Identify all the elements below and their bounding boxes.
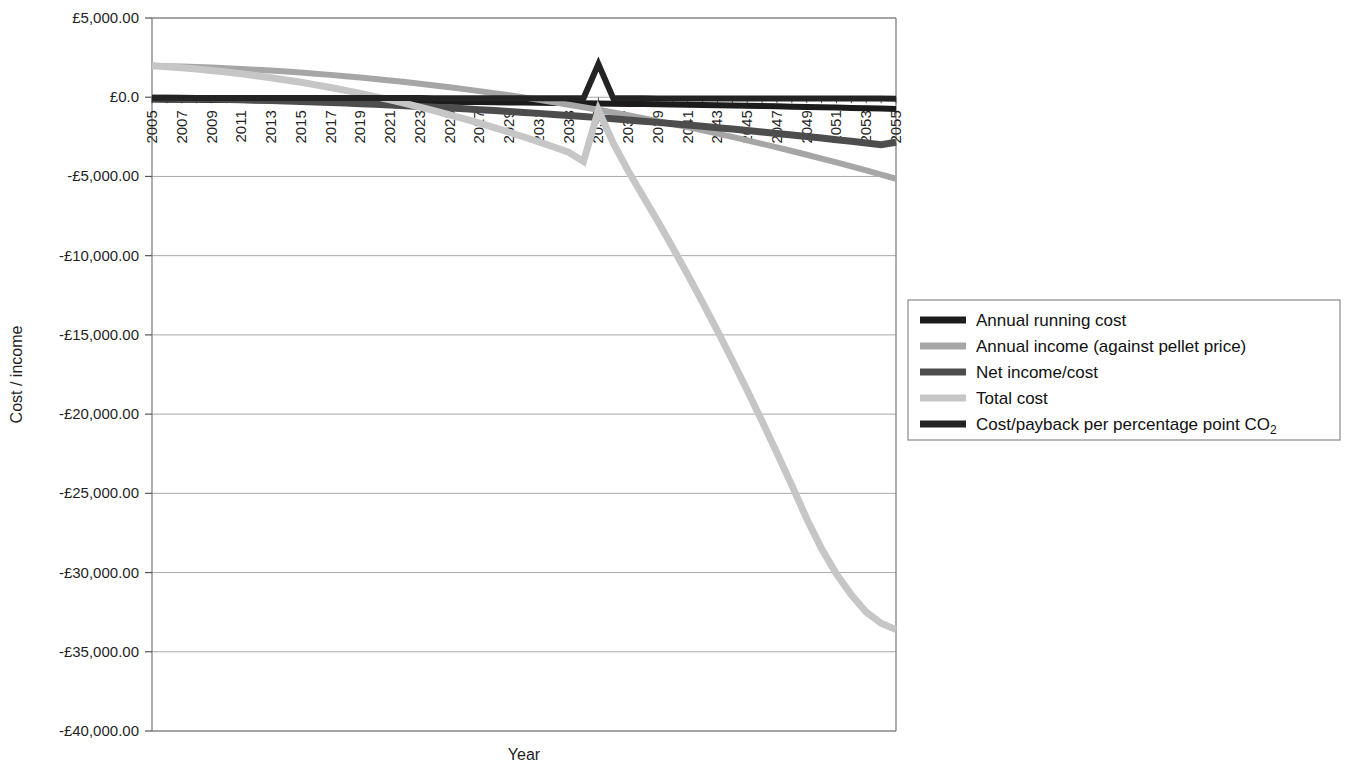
y-axis-ticks: £5,000.00£0.0-£5,000.00-£10,000.00-£15,0…: [59, 9, 152, 739]
y-axis-title: Cost / income: [8, 325, 25, 423]
legend-item-label: Annual income (against pellet price): [976, 337, 1246, 356]
y-axis-tick-label: -£30,000.00: [59, 564, 139, 581]
y-axis-tick-label: -£25,000.00: [59, 484, 139, 501]
x-axis-tick-label: 2039: [649, 110, 666, 143]
legend-item-label: Net income/cost: [976, 363, 1098, 382]
y-axis-tick-label: £5,000.00: [72, 9, 139, 26]
x-axis-tick-label: 2017: [322, 110, 339, 143]
x-axis-tick-label: 2015: [292, 110, 309, 143]
chart-canvas: £5,000.00£0.0-£5,000.00-£10,000.00-£15,0…: [0, 0, 1347, 774]
chart-legend: Annual running costAnnual income (agains…: [908, 300, 1340, 440]
x-axis-tick-label: 2011: [232, 110, 249, 142]
y-axis-tick-label: -£35,000.00: [59, 643, 139, 660]
y-axis-tick-label: -£15,000.00: [59, 326, 139, 343]
y-axis-tick-label: -£40,000.00: [59, 722, 139, 739]
y-axis-tick-label: -£5,000.00: [67, 167, 139, 184]
y-axis-tick-label: -£20,000.00: [59, 405, 139, 422]
x-axis-tick-label: 2007: [173, 110, 190, 143]
x-axis-tick-label: 2055: [887, 110, 904, 143]
legend-item-label: Annual running cost: [976, 311, 1127, 330]
x-axis-tick-label: 2021: [381, 110, 398, 143]
legend-item-label: Cost/payback per percentage point CO2: [976, 415, 1277, 437]
y-axis-tick-label: -£10,000.00: [59, 247, 139, 264]
data-series: [152, 64, 896, 630]
x-axis-tick-label: 2047: [768, 110, 785, 143]
chart-figure: £5,000.00£0.0-£5,000.00-£10,000.00-£15,0…: [0, 0, 1347, 774]
x-axis-tick-label: 2005: [143, 110, 160, 143]
x-axis-tick-label: 2053: [857, 110, 874, 143]
x-axis-tick-label: 2013: [262, 110, 279, 143]
axis-titles: Cost / incomeYear: [8, 325, 541, 763]
x-axis-title: Year: [508, 746, 541, 763]
x-axis-tick-label: 2019: [351, 110, 368, 143]
legend-item-label: Total cost: [976, 389, 1048, 408]
x-axis-tick-label: 2023: [411, 110, 428, 143]
y-axis-tick-label: £0.0: [110, 88, 139, 105]
x-axis-tick-label: 2009: [203, 110, 220, 143]
